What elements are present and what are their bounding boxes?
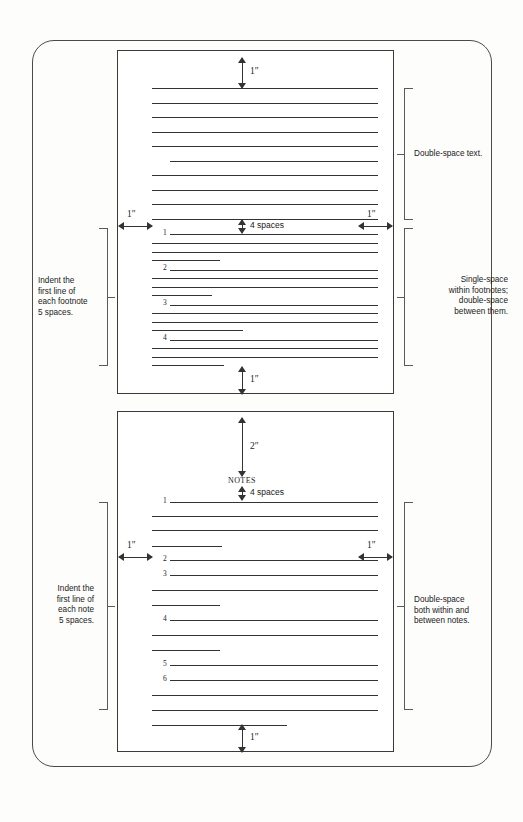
page-two-bottom-margin-label: 1″	[250, 733, 259, 743]
page-one-top-margin-label: 1″	[250, 67, 259, 77]
footnote-last-line	[152, 295, 212, 296]
annotation-single-space-footnotes: Single-space within footnotes; double-sp…	[398, 275, 508, 317]
body-line	[152, 190, 378, 191]
note-first-line	[170, 575, 378, 576]
note-first-line	[170, 560, 378, 561]
figure-canvas: 1″ 1″ 1″ 4 spaces 1 2 3 4	[0, 0, 523, 822]
footnote-last-line	[152, 365, 224, 366]
page-one-bottom-margin-arrow	[238, 367, 247, 394]
footnote-line	[152, 287, 378, 288]
notes-heading: NOTES	[228, 476, 256, 485]
body-line	[152, 88, 378, 89]
annotation-double-space-notes: Double-space both within and between not…	[414, 595, 514, 627]
annotation-indent-footnote: Indent the first line of each footnote 5…	[38, 276, 94, 318]
note-line	[152, 516, 378, 517]
footnote-first-line	[170, 270, 378, 271]
footnote-last-line	[152, 330, 243, 331]
footnote-line	[152, 252, 378, 253]
bracket-double-space-text	[404, 88, 413, 220]
footnote-first-line	[170, 305, 378, 306]
footnote-line	[152, 357, 378, 358]
footnote-number: 3	[163, 299, 167, 307]
note-last-line	[152, 546, 222, 547]
note-number: 3	[163, 570, 167, 578]
footnote-number: 2	[163, 264, 167, 272]
note-last-line	[152, 650, 220, 651]
footnote-line	[152, 243, 378, 244]
page-one-footnote-gap-arrow	[238, 220, 247, 233]
page-two-heading-gap-arrow	[238, 487, 247, 500]
footnote-number: 4	[163, 334, 167, 342]
page-two-bottom-margin-arrow	[238, 725, 247, 752]
note-number: 6	[163, 675, 167, 683]
bracket-double-space-notes	[404, 502, 413, 710]
page-one-right-margin-label: 1″	[367, 210, 376, 220]
footnote-last-line	[152, 260, 220, 261]
note-first-line	[170, 502, 378, 503]
page-one-left-margin-label: 1″	[127, 210, 136, 220]
page-two-sheet	[117, 411, 394, 752]
page-two-left-margin-arrow	[119, 553, 152, 562]
body-line	[152, 132, 378, 133]
page-one-right-margin-arrow	[359, 222, 392, 231]
note-line	[152, 710, 378, 711]
note-first-line	[170, 680, 378, 681]
note-last-line	[152, 605, 220, 606]
note-number: 5	[163, 660, 167, 668]
body-line	[152, 175, 378, 176]
note-line	[152, 695, 378, 696]
page-one-bottom-margin-label: 1″	[250, 375, 259, 385]
body-line	[152, 103, 378, 104]
note-first-line	[170, 665, 378, 666]
annotation-indent-note: Indent the first line of each note 5 spa…	[30, 584, 94, 626]
note-last-line	[152, 725, 287, 726]
page-two-left-margin-label: 1″	[127, 541, 136, 551]
footnote-first-line	[170, 340, 378, 341]
page-one-left-margin-arrow	[119, 222, 152, 231]
page-two-top-margin-label: 2″	[250, 442, 259, 452]
footnote-number: 1	[163, 229, 167, 237]
body-line	[152, 146, 378, 147]
note-number: 2	[163, 555, 167, 563]
note-line	[152, 530, 378, 531]
bracket-indent-footnote	[99, 228, 108, 366]
body-line-indented	[170, 161, 378, 162]
footnote-first-line	[170, 234, 378, 235]
body-line	[152, 117, 378, 118]
page-one-top-margin-arrow	[238, 58, 247, 88]
footnote-line	[152, 348, 378, 349]
note-line	[152, 590, 378, 591]
note-line	[152, 635, 378, 636]
annotation-double-space-text: Double-space text.	[414, 149, 510, 160]
page-two-top-margin-arrow	[238, 418, 247, 476]
footnote-line	[152, 313, 378, 314]
body-line	[152, 204, 378, 205]
page-one-footnote-gap-label: 4 spaces	[250, 221, 284, 230]
bracket-indent-note	[99, 502, 108, 710]
note-first-line	[170, 620, 378, 621]
page-two-right-margin-label: 1″	[367, 541, 376, 551]
note-number: 1	[163, 497, 167, 505]
page-two-heading-gap-label: 4 spaces	[250, 488, 284, 497]
note-number: 4	[163, 615, 167, 623]
footnote-line	[152, 278, 378, 279]
footnote-line	[152, 322, 378, 323]
